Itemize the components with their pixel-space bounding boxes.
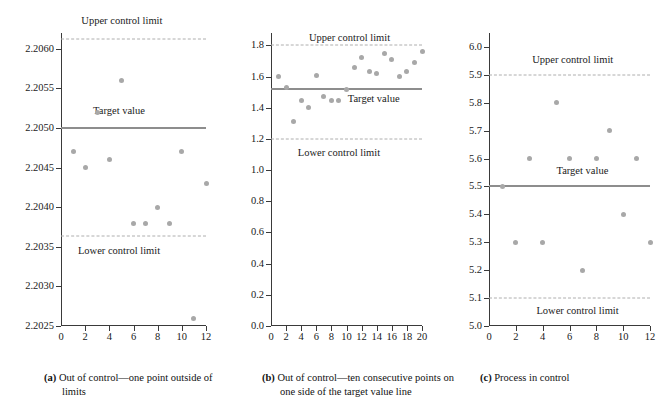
x-tick-label: 6 xyxy=(131,332,136,343)
plot-area-a: 2.20252.20302.20352.20402.20452.20502.20… xyxy=(61,33,206,326)
data-point xyxy=(107,157,112,162)
y-tick xyxy=(56,88,61,89)
y-tick-label: 5.1 xyxy=(469,293,482,304)
x-tick-label: 4 xyxy=(107,332,112,343)
y-tick xyxy=(56,247,61,248)
y-tick-label: 0.0 xyxy=(251,321,264,332)
data-point xyxy=(580,268,585,273)
lower-control-limit-line xyxy=(271,138,422,139)
data-point xyxy=(412,60,417,65)
x-tick-label: 8 xyxy=(594,332,599,343)
control-charts-figure: 2.20252.20302.20352.20402.20452.20502.20… xyxy=(0,0,669,417)
data-point xyxy=(513,240,518,245)
y-tick xyxy=(484,47,489,48)
target-value-label: Target value xyxy=(93,105,145,116)
data-point xyxy=(359,55,364,60)
y-tick-label: 5.5 xyxy=(469,181,482,192)
lower-control-limit-line xyxy=(489,298,650,299)
x-tick-label: 6 xyxy=(567,332,572,343)
y-tick xyxy=(266,264,271,265)
y-tick-label: 5.8 xyxy=(469,98,482,109)
data-point xyxy=(336,98,341,103)
y-tick xyxy=(56,168,61,169)
upper-control-limit-label: Upper control limit xyxy=(309,33,390,44)
y-tick-label: 2.2040 xyxy=(25,202,54,213)
lower-control-limit-label: Lower control limit xyxy=(536,306,618,317)
data-point xyxy=(329,98,334,103)
x-tick-label: 12 xyxy=(645,332,656,343)
x-tick-label: 10 xyxy=(618,332,629,343)
caption-a-text: Out of control—one point outside of limi… xyxy=(59,372,213,397)
y-tick xyxy=(56,326,61,327)
y-tick xyxy=(484,131,489,132)
target-value-label: Target value xyxy=(556,166,608,177)
data-point xyxy=(71,149,76,154)
y-tick xyxy=(266,201,271,202)
data-point xyxy=(554,100,559,105)
y-tick-label: 2.2055 xyxy=(25,83,54,94)
x-tick-label: 4 xyxy=(540,332,545,343)
data-point xyxy=(367,69,372,74)
x-tick-label: 10 xyxy=(177,332,188,343)
y-tick xyxy=(56,207,61,208)
data-point xyxy=(314,73,319,78)
y-tick xyxy=(56,49,61,50)
data-point xyxy=(540,240,545,245)
y-tick-label: 5.2 xyxy=(469,265,482,276)
y-axis-b xyxy=(271,33,272,326)
upper-control-limit-line xyxy=(61,38,206,39)
x-tick-label: 18 xyxy=(402,332,413,343)
data-point xyxy=(299,98,304,103)
x-tick-label: 20 xyxy=(417,332,428,343)
data-point xyxy=(634,156,639,161)
data-point xyxy=(191,316,196,321)
y-tick-label: 0.4 xyxy=(251,258,264,269)
y-tick xyxy=(266,326,271,327)
y-tick-label: 5.0 xyxy=(469,321,482,332)
x-tick-label: 14 xyxy=(371,332,382,343)
data-point xyxy=(143,221,148,226)
y-tick xyxy=(484,103,489,104)
upper-control-limit-label: Upper control limit xyxy=(81,16,162,27)
x-tick-label: 4 xyxy=(299,332,304,343)
data-point xyxy=(404,69,409,74)
data-point xyxy=(131,221,136,226)
y-tick xyxy=(484,242,489,243)
y-tick-label: 0.2 xyxy=(251,290,264,301)
y-tick xyxy=(484,270,489,271)
upper-control-limit-line xyxy=(489,74,650,75)
caption-b-text: Out of control—ten consecutive points on… xyxy=(277,372,453,397)
data-point xyxy=(284,85,289,90)
chart-panel-c: 5.05.15.25.35.45.55.65.75.85.96.00246810… xyxy=(441,0,669,417)
y-tick xyxy=(484,214,489,215)
x-tick-label: 0 xyxy=(486,332,491,343)
caption-b-label: (b) xyxy=(262,372,275,383)
y-tick-label: 0.6 xyxy=(251,227,264,238)
caption-a: (a) Out of control—one point outside of … xyxy=(44,371,234,399)
caption-a-label: (a) xyxy=(44,372,56,383)
plot-area-b: 0.00.20.40.60.81.01.21.41.61.80246810121… xyxy=(271,33,422,326)
y-tick-label: 5.9 xyxy=(469,70,482,81)
target-value-line xyxy=(61,127,206,129)
data-point xyxy=(276,74,281,79)
lower-control-limit-label: Lower control limit xyxy=(78,246,160,257)
y-tick-label: 2.2030 xyxy=(25,281,54,292)
data-point xyxy=(321,94,326,99)
lower-control-limit-label: Lower control limit xyxy=(298,148,380,159)
target-value-line xyxy=(489,185,650,187)
x-tick-label: 8 xyxy=(329,332,334,343)
y-tick-label: 1.2 xyxy=(251,134,264,145)
lower-control-limit-line xyxy=(61,235,206,236)
x-tick-label: 0 xyxy=(58,332,63,343)
x-tick-label: 0 xyxy=(268,332,273,343)
y-tick xyxy=(266,295,271,296)
x-tick-label: 12 xyxy=(356,332,367,343)
x-tick-label: 2 xyxy=(283,332,288,343)
y-tick-label: 2.2035 xyxy=(25,242,54,253)
data-point xyxy=(389,57,394,62)
target-value-label: Target value xyxy=(348,94,400,105)
data-point xyxy=(648,240,653,245)
data-point xyxy=(204,181,209,186)
data-point xyxy=(179,149,184,154)
y-tick-label: 1.0 xyxy=(251,165,264,176)
